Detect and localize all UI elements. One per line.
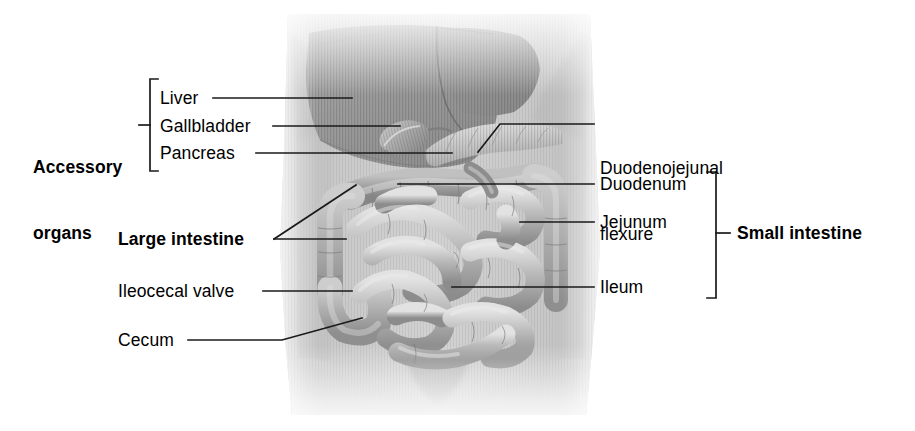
label-jejunum: Jejunum [600, 211, 667, 233]
label-ileum: Ileum [600, 276, 643, 298]
label-ileocecal-valve: Ileocecal valve [118, 280, 234, 302]
label-cecum: Cecum [118, 329, 174, 351]
group-label-small-intestine: Small intestine [737, 222, 862, 244]
anatomy-illustration [0, 0, 915, 431]
torso-illustration [270, 0, 610, 431]
accessory-organs-bracket [139, 79, 158, 171]
anatomy-figure: Accessory organs Liver Gallbladder Pancr… [0, 0, 915, 431]
label-gallbladder: Gallbladder [160, 115, 251, 137]
accessory-organs-line1: Accessory [33, 156, 122, 178]
label-large-intestine: Large intestine [118, 228, 244, 250]
group-label-accessory-organs: Accessory organs [33, 112, 122, 288]
label-duodenum: Duodenum [600, 173, 686, 195]
label-pancreas: Pancreas [160, 142, 235, 164]
accessory-organs-line2: organs [33, 222, 122, 244]
label-duodenojejunal-flexure: Duodenojejunal flexure [600, 113, 723, 289]
label-liver: Liver [160, 87, 198, 109]
